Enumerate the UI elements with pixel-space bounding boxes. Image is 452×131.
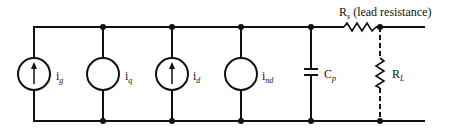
current-source-iq [87,58,119,90]
node [238,24,244,30]
label-rl: RL [392,67,405,83]
arrow-head-icon [31,62,37,69]
top-wire [34,27,344,58]
label-id: id [193,69,201,85]
label-ind: ind [262,69,274,85]
node [377,24,383,30]
node [238,118,244,124]
circuit-diagram: ig iq id ind Cp Rs (lead resistance) RL [0,0,452,131]
label-ig: ig [56,69,63,85]
node [308,24,314,30]
resistor-rl [376,58,384,88]
label-iq: iq [125,69,132,85]
node [100,118,106,124]
node [377,118,383,124]
current-source-ind [225,58,257,90]
capacitor-cp [304,69,318,75]
node [308,118,314,124]
node [100,24,106,30]
resistor-rs [344,23,376,31]
arrow-head-icon [169,62,175,69]
node [169,24,175,30]
label-cp: Cp [324,67,336,83]
label-rs: Rs (lead resistance) [339,5,431,21]
node [169,118,175,124]
bottom-wire [34,90,425,121]
